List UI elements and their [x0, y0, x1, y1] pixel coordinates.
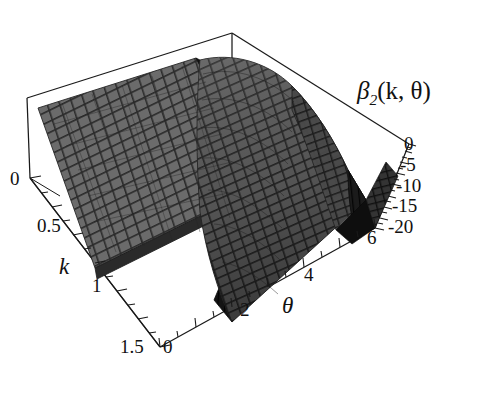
k-tick-0.5: 0.5 [37, 216, 61, 235]
k-tick-1: 1 [92, 276, 102, 295]
theta-tick-4: 4 [304, 265, 314, 284]
k-tick-0: 0 [10, 169, 20, 188]
theta-tick-2: 2 [240, 300, 250, 319]
z-tick--10: -10 [396, 176, 421, 195]
k-axis-label: k [59, 255, 69, 278]
title-arguments: (k, θ) [377, 77, 431, 104]
z-tick--15: -15 [392, 196, 417, 215]
theta-axis-label: θ [282, 294, 293, 317]
z-tick--20: -20 [388, 217, 413, 236]
theta-tick-6: 6 [367, 228, 377, 247]
surface-plot-figure: β2(k, θ) 0 0.5 1 1.5 k 0 2 4 6 θ 0 -5 -1… [0, 0, 484, 393]
z-tick-0: 0 [404, 134, 414, 153]
title-beta: β [357, 77, 369, 104]
plot-title: β2(k, θ) [357, 78, 431, 108]
z-tick--5: -5 [400, 155, 416, 174]
theta-tick-0: 0 [163, 337, 173, 356]
base-plane-edges [30, 178, 60, 196]
k-tick-1.5: 1.5 [120, 337, 144, 356]
